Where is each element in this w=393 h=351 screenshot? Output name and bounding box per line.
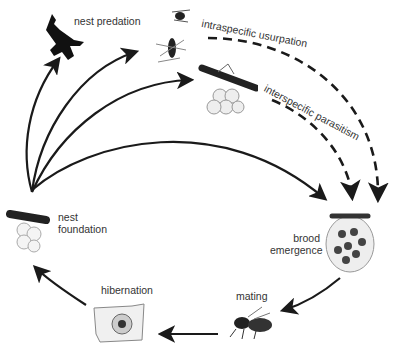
parasite-wasp-on-nest-icon — [198, 60, 258, 118]
arrow-foundation-to-brood — [32, 142, 324, 198]
label-nest-foundation: nest foundation — [58, 211, 107, 235]
label-mating: mating — [236, 290, 268, 302]
label-hibernation: hibernation — [101, 284, 153, 296]
wasp-life-cycle-diagram: nest predation intraspecific usurpation … — [0, 0, 393, 351]
arrow-foundation-to-parasitism — [32, 80, 190, 192]
mating-wasps-icon — [226, 305, 274, 341]
label-brood-emergence: brood emergence — [270, 232, 320, 256]
arrow-hibernation-to-foundation — [36, 268, 86, 305]
wasps-fighting-icon — [150, 4, 194, 70]
foundress-wasp-icon — [6, 204, 50, 256]
label-nest-predation: nest predation — [74, 15, 141, 27]
hibernating-wasp-icon — [92, 302, 148, 346]
nest-with-brood-icon — [322, 206, 382, 276]
arrow-brood-to-mating — [284, 278, 340, 310]
